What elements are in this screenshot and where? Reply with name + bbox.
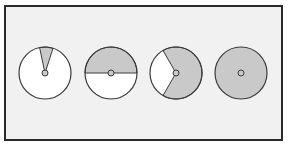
circle-2 [85, 47, 137, 99]
center-hub [173, 70, 179, 76]
circle-1 [19, 47, 71, 99]
center-hub [238, 70, 244, 76]
circle-3 [150, 47, 202, 99]
circle-4 [215, 47, 267, 99]
shaded-sector [85, 47, 137, 73]
center-hub [108, 70, 114, 76]
center-hub [42, 70, 48, 76]
circles-diagram [0, 0, 288, 146]
